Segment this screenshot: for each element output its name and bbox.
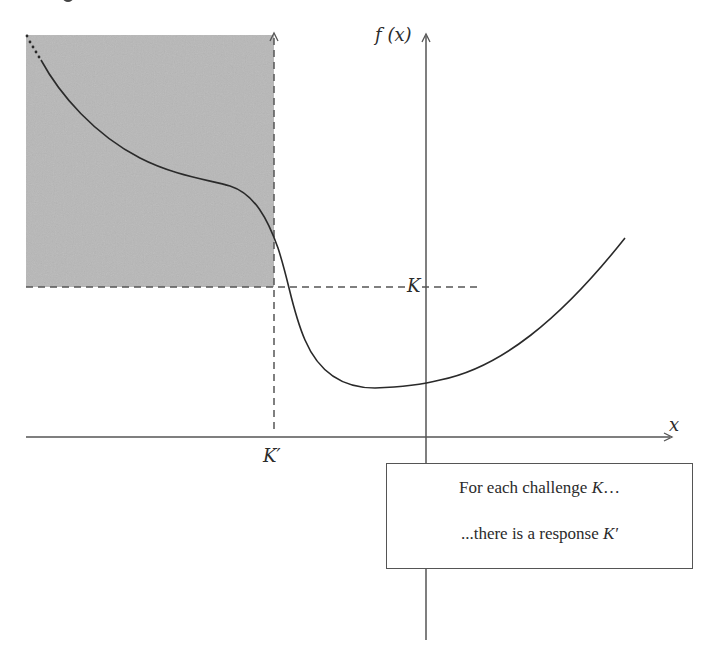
x-axis-label: x — [669, 414, 679, 435]
caption-line-2-var: K′ — [603, 524, 618, 543]
caption-line-1: For each challenge K… — [387, 478, 692, 498]
shaded-region — [26, 35, 274, 287]
caption-box: For each challenge K… ...there is a resp… — [386, 463, 693, 569]
diagram-canvas: f (x) x K K′ For each challenge K… ...th… — [0, 0, 704, 668]
caption-line-1-var: K — [592, 478, 603, 497]
caption-line-2-text: ...there is a response — [461, 524, 603, 543]
caption-line-1-text: For each challenge — [459, 478, 592, 497]
y-axis-label: f (x) — [375, 24, 412, 45]
caption-line-1-suffix: … — [603, 478, 620, 497]
challenge-k-label: K — [405, 275, 422, 296]
response-k-prime-label: K′ — [263, 445, 281, 466]
caption-line-2: ...there is a response K′ — [387, 524, 692, 544]
